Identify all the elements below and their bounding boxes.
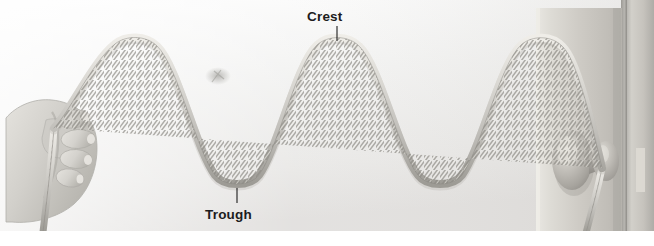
background-smudge-icon xyxy=(205,67,231,85)
wave-illustration-figure: Crest Trough xyxy=(0,0,654,246)
scene-canvas xyxy=(0,0,654,246)
hand-nail-pinky xyxy=(77,175,84,184)
trough-label: Trough xyxy=(205,208,252,222)
door-jamb xyxy=(626,0,654,231)
crest-label: Crest xyxy=(307,10,343,24)
bottom-margin xyxy=(0,231,654,246)
door-edge-shadow xyxy=(613,8,621,231)
strike-plate xyxy=(636,148,645,192)
hand-nail-ring xyxy=(84,155,92,165)
hand-nail-middle xyxy=(87,134,95,144)
